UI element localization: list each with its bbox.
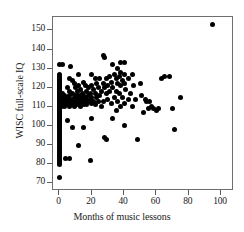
y-tick-label: 120	[31, 82, 45, 92]
y-tick-label: 100	[31, 120, 45, 130]
x-tick-mark	[91, 190, 92, 195]
data-point	[156, 106, 161, 111]
data-point	[65, 118, 70, 123]
data-point	[141, 110, 146, 115]
data-point	[122, 60, 127, 65]
x-tick-label: 0	[46, 197, 70, 207]
y-tick-mark	[47, 125, 52, 126]
data-points-layer	[53, 17, 232, 189]
data-point	[170, 106, 175, 111]
data-point	[99, 104, 104, 109]
data-point	[135, 137, 140, 142]
data-point	[89, 116, 94, 121]
data-point	[138, 81, 143, 86]
x-axis-label: Months of music lessons	[0, 211, 244, 222]
x-tick-mark	[220, 190, 221, 195]
x-tick-mark	[123, 190, 124, 195]
y-tick-mark	[47, 182, 52, 183]
data-point	[57, 175, 62, 180]
data-point	[70, 125, 75, 130]
data-point	[167, 74, 172, 79]
data-point	[130, 72, 135, 77]
y-axis-label: WISC full-scale IQ	[14, 31, 25, 171]
y-tick-label: 140	[31, 44, 45, 54]
data-point	[109, 101, 114, 106]
data-point	[122, 81, 127, 86]
y-tick-label: 150	[31, 24, 45, 34]
data-point	[97, 76, 102, 81]
data-point	[122, 123, 127, 128]
x-tick-label: 40	[111, 197, 135, 207]
data-point	[60, 62, 65, 67]
x-tick-mark	[155, 190, 156, 195]
data-point	[104, 137, 109, 142]
data-point	[68, 64, 73, 69]
y-tick-mark	[47, 29, 52, 30]
y-tick-label: 70	[36, 177, 45, 187]
data-point	[210, 22, 215, 27]
y-tick-mark	[47, 106, 52, 107]
y-tick-label: 90	[36, 139, 45, 149]
data-point	[115, 99, 120, 104]
x-tick-label: 100	[208, 197, 232, 207]
data-point	[130, 104, 135, 109]
x-tick-label: 60	[143, 197, 167, 207]
data-point	[76, 143, 81, 148]
plot-frame	[52, 16, 233, 190]
data-point	[57, 162, 62, 167]
data-point	[81, 125, 86, 130]
data-point	[133, 97, 138, 102]
data-point	[109, 80, 114, 85]
y-tick-label: 80	[36, 158, 45, 168]
y-tick-mark	[47, 163, 52, 164]
data-point	[76, 72, 81, 77]
data-point	[110, 116, 115, 121]
y-tick-mark	[47, 87, 52, 88]
data-point	[172, 127, 177, 132]
data-point	[120, 95, 125, 100]
scatter-plot-figure: 708090100110120130140150 020406080100 WI…	[0, 0, 244, 232]
y-tick-label: 130	[31, 63, 45, 73]
y-tick-mark	[47, 68, 52, 69]
x-tick-mark	[58, 190, 59, 195]
x-tick-label: 20	[79, 197, 103, 207]
data-point	[114, 108, 119, 113]
data-point	[128, 91, 133, 96]
data-point	[102, 55, 107, 60]
x-tick-mark	[188, 190, 189, 195]
data-point	[67, 156, 72, 161]
data-point	[126, 97, 131, 102]
data-point	[178, 95, 183, 100]
data-point	[131, 83, 136, 88]
data-point	[147, 99, 152, 104]
y-tick-mark	[47, 144, 52, 145]
x-tick-label: 80	[176, 197, 200, 207]
y-tick-mark	[47, 49, 52, 50]
y-tick-label: 110	[32, 101, 45, 111]
data-point	[88, 158, 93, 163]
